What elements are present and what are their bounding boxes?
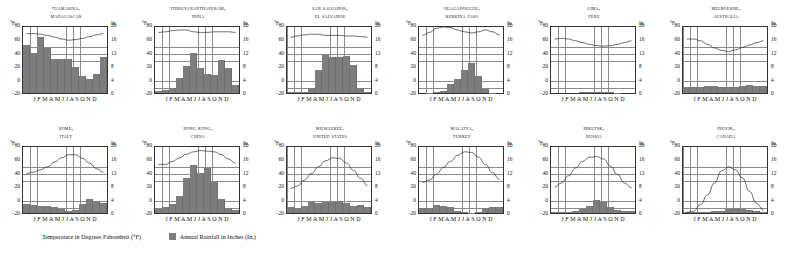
climate-panel: Toamasina,Madagascar°FIn.806040200-20201… <box>0 2 132 122</box>
panel-city: Melbourne, <box>660 4 792 12</box>
left-axis-tick: 60 <box>3 37 20 42</box>
left-axis-tick: -20 <box>399 91 416 96</box>
left-axis-tick: 60 <box>531 157 548 162</box>
panel-title: San Salvador,El Salvador <box>264 2 396 20</box>
panel-plot-area: °FIn.806040200-20201612840J F M A M J J … <box>264 140 396 226</box>
climate-chart-grid: Toamasina,Madagascar°FIn.806040200-20201… <box>0 0 792 253</box>
right-axis-tick: 16 <box>507 37 521 42</box>
plot-frame <box>418 26 504 94</box>
temperature-curve <box>419 147 503 213</box>
right-axis-tick: 20 <box>639 143 653 148</box>
panel-city: Thiruvananthapuram, <box>132 4 264 12</box>
left-axis-tick: -20 <box>663 91 680 96</box>
panel-country: Burkina Faso <box>396 12 528 20</box>
right-axis-tick: 16 <box>375 37 389 42</box>
panel-city: Malatya, <box>396 124 528 132</box>
right-axis-tick: 20 <box>507 23 521 28</box>
panel-country: India <box>132 12 264 20</box>
left-axis-tick: 20 <box>135 64 152 69</box>
right-axis-tick: 0 <box>375 91 389 96</box>
left-axis-tick: 0 <box>267 198 284 203</box>
left-axis-tick: 80 <box>135 143 152 148</box>
month-axis-labels: J F M A M J J A S O N D <box>550 216 636 222</box>
left-axis-tick: 0 <box>135 78 152 83</box>
left-axis-tick: -20 <box>135 211 152 216</box>
legend: Temperature in Degrees Fahrenheit (°F) A… <box>42 233 462 240</box>
plot-frame <box>22 146 108 214</box>
left-axis-tick: 60 <box>267 37 284 42</box>
climate-panel: Thiruvananthapuram,India°FIn.806040200-2… <box>132 2 264 122</box>
temperature-curve <box>155 147 239 213</box>
left-axis-tick: -20 <box>267 211 284 216</box>
panel-plot-area: °FIn.806040200-20201612840J F M A M J J … <box>528 140 660 226</box>
left-axis-tick: 40 <box>3 171 20 176</box>
left-axis-tick: -20 <box>135 91 152 96</box>
temperature-curve <box>23 147 107 213</box>
panel-title: Irkutsk,Russia <box>528 122 660 140</box>
left-axis-tick: -20 <box>399 211 416 216</box>
climate-panel: Hong Kong,China°FIn.806040200-2020161284… <box>132 122 264 242</box>
left-axis-tick: 20 <box>663 184 680 189</box>
plot-frame <box>550 26 636 94</box>
panel-plot-area: °FIn.806040200-20201612840J F M A M J J … <box>264 20 396 106</box>
left-axis-tick: 20 <box>399 184 416 189</box>
left-axis-tick: 40 <box>663 171 680 176</box>
left-axis-tick: -20 <box>3 211 20 216</box>
left-axis-tick: 0 <box>531 78 548 83</box>
panel-city: Ouagadougou, <box>396 4 528 12</box>
panel-title: Ouagadougou,Burkina Faso <box>396 2 528 20</box>
panel-title: Milwaukee,United States <box>264 122 396 140</box>
right-axis-tick: 0 <box>243 91 257 96</box>
left-axis-tick: 40 <box>663 51 680 56</box>
temperature-curve <box>287 27 371 93</box>
panel-country: Russia <box>528 132 660 140</box>
right-axis-tick: 12 <box>243 51 257 56</box>
temperature-curve <box>551 147 635 213</box>
right-axis-tick: 20 <box>111 143 125 148</box>
left-axis-tick: 40 <box>531 51 548 56</box>
right-axis-tick: 4 <box>771 78 785 83</box>
right-axis-tick: 12 <box>243 171 257 176</box>
panel-country: China <box>132 132 264 140</box>
panel-plot-area: °FIn.806040200-20201612840J F M A M J J … <box>132 20 264 106</box>
left-axis-tick: 40 <box>531 171 548 176</box>
plot-frame <box>418 146 504 214</box>
plot-frame <box>682 146 768 214</box>
right-axis-tick: 4 <box>771 198 785 203</box>
left-axis-tick: 40 <box>135 171 152 176</box>
panel-country: Turkey <box>396 132 528 140</box>
left-axis-tick: 0 <box>135 198 152 203</box>
climate-panel: Malatya,Turkey°FIn.806040200-20201612840… <box>396 122 528 242</box>
panel-title: Malatya,Turkey <box>396 122 528 140</box>
plot-frame <box>550 146 636 214</box>
temperature-curve <box>155 27 239 93</box>
month-axis-labels: J F M A M J J A S O N D <box>682 96 768 102</box>
temperature-curve <box>551 27 635 93</box>
plot-frame <box>286 146 372 214</box>
left-axis-tick: 80 <box>531 23 548 28</box>
left-axis-tick: 0 <box>399 78 416 83</box>
left-axis-tick: 80 <box>3 143 20 148</box>
left-axis-tick: 0 <box>663 198 680 203</box>
left-axis-tick: 80 <box>663 143 680 148</box>
temperature-curve <box>287 147 371 213</box>
legend-temperature-label: Temperature in Degrees Fahrenheit (°F) <box>42 233 141 240</box>
panel-city: Inuvik, <box>660 124 792 132</box>
month-axis-labels: J F M A M J J A S O N D <box>22 96 108 102</box>
left-axis-tick: 80 <box>531 143 548 148</box>
temperature-curve <box>419 27 503 93</box>
panel-city: Lima, <box>528 4 660 12</box>
right-axis-tick: 12 <box>507 51 521 56</box>
right-axis-tick: 20 <box>771 23 785 28</box>
right-axis-tick: 0 <box>639 211 653 216</box>
left-axis-tick: 80 <box>399 143 416 148</box>
month-axis-labels: J F M A M J J A S O N D <box>154 216 240 222</box>
right-axis-tick: 20 <box>639 23 653 28</box>
temperature-curve <box>683 27 767 93</box>
right-axis-tick: 20 <box>375 23 389 28</box>
left-axis-tick: 0 <box>3 198 20 203</box>
right-axis-tick: 4 <box>507 198 521 203</box>
right-axis-tick: 12 <box>639 51 653 56</box>
panel-city: San Salvador, <box>264 4 396 12</box>
left-axis-tick: 20 <box>267 64 284 69</box>
